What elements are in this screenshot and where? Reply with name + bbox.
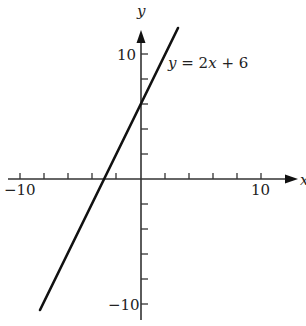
series-line-y-2x-plus-6	[40, 28, 178, 310]
y-axis-label: y	[136, 2, 146, 20]
x-tick-label-max: 10	[251, 181, 270, 199]
y-tick-label-max: 10	[117, 46, 136, 64]
y-axis-arrow-icon	[137, 30, 146, 43]
x-tick-label-min: −10	[4, 181, 36, 199]
x-axis-arrow-icon	[285, 175, 298, 184]
x-axis-label: x	[300, 171, 306, 189]
line-chart: y x −10 10 10 −10 y = 2x + 6	[0, 0, 306, 326]
equation-annotation: y = 2x + 6	[167, 54, 248, 72]
y-tick-label-min: −10	[108, 296, 140, 314]
